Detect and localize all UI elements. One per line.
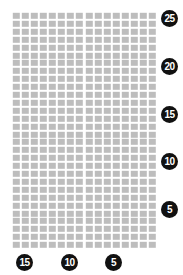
y-axis-tick-25: 25 [161,10,178,27]
x-axis-tick-10: 10 [61,254,78,271]
grid-cells-canvas [12,12,157,249]
x-axis-tick-5: 5 [105,254,122,271]
y-axis-tick-5: 5 [161,201,178,218]
chart-root: 25 20 15 10 5 15 10 5 [0,0,183,275]
x-axis-tick-15: 15 [16,254,33,271]
y-axis-tick-15: 15 [161,106,178,123]
y-axis-tick-10: 10 [161,153,178,170]
y-axis-tick-20: 20 [161,58,178,75]
plot-area [12,12,157,249]
